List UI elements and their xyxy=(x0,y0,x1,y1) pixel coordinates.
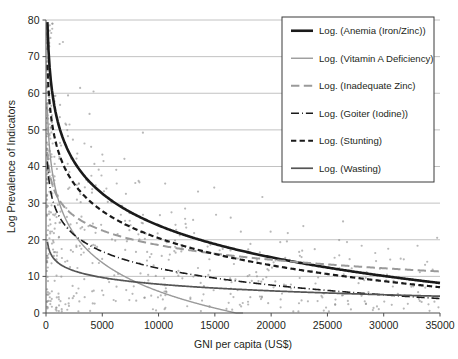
scatter-point xyxy=(125,289,127,291)
scatter-point xyxy=(181,277,183,279)
legend-label-2: Log. (Inadequate Zinc) xyxy=(319,80,416,91)
scatter-point xyxy=(208,258,210,260)
scatter-point xyxy=(54,163,56,165)
scatter-point xyxy=(114,240,116,242)
scatter-point xyxy=(170,211,172,213)
scatter-point xyxy=(281,292,283,294)
scatter-point xyxy=(58,304,60,306)
scatter-point xyxy=(84,186,86,188)
scatter-point xyxy=(256,275,258,277)
scatter-point xyxy=(49,37,51,39)
scatter-point xyxy=(47,225,49,227)
scatter-point xyxy=(424,287,426,289)
scatter-point xyxy=(69,266,71,268)
scatter-point xyxy=(128,299,130,301)
scatter-point xyxy=(328,310,330,312)
scatter-point xyxy=(59,211,61,213)
scatter-point xyxy=(66,260,68,262)
scatter-point xyxy=(75,157,77,159)
scatter-point xyxy=(49,24,51,26)
scatter-point xyxy=(302,225,304,227)
scatter-point xyxy=(58,298,60,300)
scatter-point xyxy=(300,299,302,301)
scatter-point xyxy=(407,303,409,305)
scatter-point xyxy=(152,308,154,310)
scatter-point xyxy=(48,213,50,215)
scatter-point xyxy=(177,275,179,277)
scatter-point xyxy=(259,295,261,297)
scatter-point xyxy=(51,230,53,232)
scatter-point xyxy=(165,287,167,289)
chart-container: 0102030405060708005000100001500020000250… xyxy=(0,0,458,359)
scatter-point xyxy=(192,219,194,221)
scatter-point xyxy=(270,231,272,233)
legend-label-1: Log. (Vitamin A Deficiency) xyxy=(319,53,433,64)
scatter-point xyxy=(149,256,151,258)
scatter-point xyxy=(207,274,209,276)
scatter-point xyxy=(280,306,282,308)
scatter-point xyxy=(247,301,249,303)
scatter-point xyxy=(94,245,96,247)
scatter-point xyxy=(279,241,281,243)
scatter-point xyxy=(323,309,325,311)
scatter-point xyxy=(261,295,263,297)
scatter-point xyxy=(242,302,244,304)
scatter-point xyxy=(334,257,336,259)
scatter-point xyxy=(174,224,176,226)
legend-label-3: Log. (Goiter (Iodine)) xyxy=(319,108,408,119)
scatter-point xyxy=(93,163,95,165)
scatter-point xyxy=(59,104,61,106)
scatter-point xyxy=(73,295,75,297)
scatter-point xyxy=(68,305,70,307)
scatter-point xyxy=(53,156,55,158)
y-tick-label-80: 80 xyxy=(28,14,40,26)
scatter-point xyxy=(186,305,188,307)
scatter-point xyxy=(108,281,110,283)
scatter-point xyxy=(60,144,62,146)
scatter-point xyxy=(314,248,316,250)
scatter-point xyxy=(416,245,418,247)
scatter-point xyxy=(139,272,141,274)
scatter-point xyxy=(84,296,86,298)
scatter-point xyxy=(88,248,90,250)
scatter-point xyxy=(321,296,323,298)
scatter-point xyxy=(98,262,100,264)
scatter-point xyxy=(155,309,157,311)
scatter-point xyxy=(76,199,78,201)
scatter-point xyxy=(58,236,60,238)
scatter-point xyxy=(298,302,300,304)
legend-label-4: Log. (Stunting) xyxy=(319,135,382,146)
y-tick-label-30: 30 xyxy=(28,197,40,209)
scatter-point xyxy=(103,190,105,192)
scatter-point xyxy=(200,310,202,312)
scatter-point xyxy=(301,250,303,252)
scatter-point xyxy=(230,293,232,295)
scatter-point xyxy=(229,249,231,251)
scatter-point xyxy=(150,253,152,255)
y-tick-label-50: 50 xyxy=(28,124,40,136)
scatter-point xyxy=(50,204,52,206)
scatter-point xyxy=(79,87,81,89)
scatter-point xyxy=(249,296,251,298)
scatter-point xyxy=(49,219,51,221)
scatter-point xyxy=(62,41,64,43)
scatter-point xyxy=(115,286,117,288)
scatter-point xyxy=(229,277,231,279)
scatter-point xyxy=(61,308,63,310)
scatter-point xyxy=(192,276,194,278)
scatter-point xyxy=(193,232,195,234)
scatter-point xyxy=(88,113,90,115)
scatter-point xyxy=(400,258,402,260)
scatter-point xyxy=(125,193,127,195)
scatter-point xyxy=(54,228,56,230)
scatter-point xyxy=(389,258,391,260)
scatter-point xyxy=(316,300,318,302)
scatter-point xyxy=(168,259,170,261)
scatter-point xyxy=(79,193,81,195)
scatter-point xyxy=(111,238,113,240)
scatter-point xyxy=(185,226,187,228)
scatter-point xyxy=(54,222,56,224)
scatter-point xyxy=(52,142,54,144)
scatter-point xyxy=(50,300,52,302)
scatter-point xyxy=(46,173,48,175)
